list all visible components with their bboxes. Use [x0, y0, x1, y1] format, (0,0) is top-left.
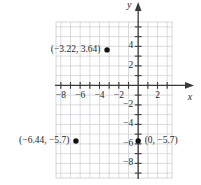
- x-axis-arrowhead: [185, 82, 194, 89]
- data-point-marker: [135, 138, 140, 143]
- data-point-marker: [73, 138, 78, 143]
- y-tick-label-neg6: −6: [123, 139, 133, 149]
- x-tick-label-neg4: −4: [94, 92, 104, 102]
- y-axis-arrowhead: [135, 2, 142, 11]
- data-point-marker: [104, 47, 109, 52]
- x-tick-label-neg6: −6: [75, 92, 85, 102]
- y-tick-label-neg2: −2: [123, 100, 133, 110]
- point-label-2: (0, −5.7): [145, 136, 178, 146]
- point-label-1: (−6.44, −5.7): [19, 136, 69, 146]
- x-tick-label-2: 2: [155, 92, 160, 102]
- y-tick-label-neg4: −4: [123, 120, 133, 130]
- x-axis-label: x: [188, 92, 192, 102]
- y-axis-label: y: [127, 0, 131, 10]
- point-label-0: (−3.22, 3.64): [51, 45, 101, 55]
- y-tick-label-4: 4: [128, 42, 133, 52]
- y-tick-label-2: 2: [128, 61, 133, 71]
- y-tick-label-neg8: −8: [123, 159, 133, 169]
- x-tick-label-neg8: −8: [56, 92, 66, 102]
